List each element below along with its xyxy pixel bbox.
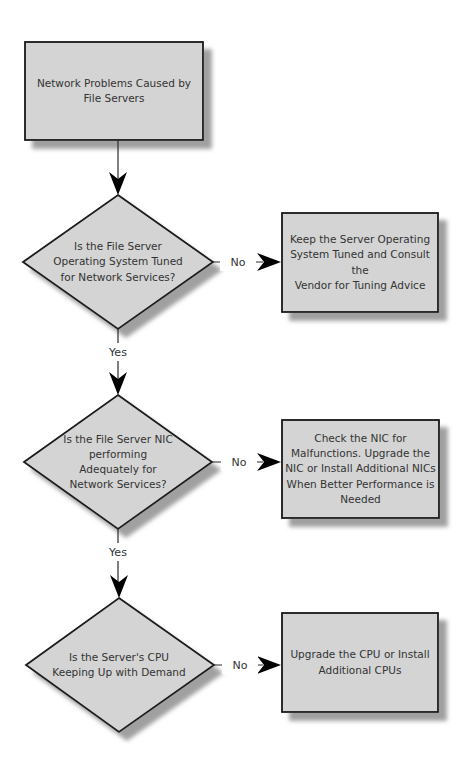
action3-node-shape [282,613,438,712]
decision2-diamond-shape [24,395,212,529]
decision3-diamond-shape [26,598,214,732]
action1-node-shape [282,213,438,312]
flowchart-graphics [0,0,467,765]
start-node-shape [25,42,203,140]
decision1-diamond-shape [23,195,213,329]
down-arrowhead-decision2-yes [110,575,128,598]
flowchart-canvas: Network Problems Caused by File Servers … [0,0,467,765]
action2-node-shape [282,420,439,518]
